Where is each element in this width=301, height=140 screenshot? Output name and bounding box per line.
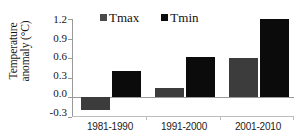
plot-area: [72, 19, 294, 117]
y-axis-line: [72, 19, 73, 117]
x-tick-mark-1: [146, 117, 147, 120]
x-tick-label-1991-2000: 1991-2000: [161, 121, 207, 133]
y-tick-label-0_9: 0.9: [53, 32, 67, 43]
x-tick-label-2001-2010: 2001-2010: [235, 121, 281, 133]
x-tick-mark-2: [220, 117, 221, 120]
y-tick-mark-neg0_3: [68, 117, 72, 118]
y-tick-mark-0_3: [68, 78, 72, 79]
x-axis-line: [72, 116, 294, 117]
bar-tmin-1981-1990: [112, 71, 141, 97]
y-axis-tick-labels: 1.2 0.9 0.6 0.3 0.0 -0.3: [40, 0, 67, 140]
temperature-anomaly-bar-chart: Temperature anomaly (°C) 1.2 0.9 0.6 0.3…: [0, 0, 301, 140]
y-tick-mark-0_6: [68, 58, 72, 59]
bar-tmin-2001-2010: [260, 19, 289, 97]
bar-tmax-1981-1990: [81, 97, 110, 110]
y-axis-title-line1: Temperature: [7, 23, 20, 80]
y-axis-title-line2: anomaly (°C): [19, 20, 32, 81]
x-tick-mark-3: [293, 117, 294, 120]
x-axis-tick-labels: 1981-1990 1991-2000 2001-2010: [72, 121, 294, 137]
y-tick-mark-0_9: [68, 39, 72, 40]
y-tick-label-neg0_3: -0.3: [50, 107, 67, 118]
bar-tmin-1991-2000: [186, 57, 215, 98]
bar-tmax-1991-2000: [155, 88, 184, 98]
y-tick-mark-1_2: [68, 19, 72, 20]
y-tick-label-1_2: 1.2: [53, 14, 67, 25]
y-tick-label-0_0: 0.0: [53, 88, 67, 99]
y-tick-label-0_6: 0.6: [53, 51, 67, 62]
x-tick-label-1981-1990: 1981-1990: [87, 121, 133, 133]
y-axis-title: Temperature anomaly (°C): [2, 0, 36, 103]
bar-tmax-2001-2010: [229, 58, 258, 98]
y-tick-label-0_3: 0.3: [53, 69, 67, 80]
